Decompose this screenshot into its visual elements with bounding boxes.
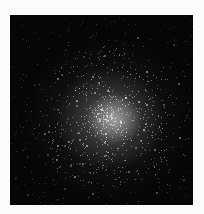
star [52,32,53,33]
star [87,109,88,110]
star [150,126,151,127]
star [96,65,97,66]
star [187,115,188,116]
star [89,116,90,117]
star [32,179,33,180]
star [27,194,29,196]
star [75,90,76,91]
star [97,101,98,102]
star [91,85,92,86]
star [49,125,50,126]
star [85,66,86,67]
star [81,130,82,131]
star [100,56,101,57]
star [27,157,28,158]
star [145,127,146,128]
star [13,34,14,35]
star [138,101,140,103]
star [152,114,153,115]
star [144,161,145,162]
star [164,150,165,151]
star [153,75,154,76]
star [146,172,147,173]
star [77,66,78,67]
star [16,151,17,152]
star [185,16,186,17]
star [152,97,153,98]
star [159,182,160,183]
star [103,126,104,127]
star [136,155,137,156]
star [141,31,142,32]
star [96,24,97,25]
star [106,139,107,140]
star [110,22,111,23]
star [103,64,104,65]
star [127,87,128,88]
star [103,110,104,111]
star [109,91,110,92]
star [84,116,85,117]
star [124,143,125,144]
star [158,138,159,139]
star [172,102,173,103]
star [104,55,106,57]
star [136,171,137,172]
star [192,26,193,27]
star [77,163,78,164]
star [154,149,156,151]
star [29,47,30,48]
star [96,33,97,34]
star [131,62,132,63]
star [133,103,134,104]
star [101,118,102,119]
star [112,137,113,138]
star [94,92,96,94]
star [61,133,62,134]
star [90,107,91,108]
star [89,58,90,59]
star [57,145,59,147]
star [185,60,186,61]
star [152,90,153,91]
star [99,94,100,95]
star [132,91,133,92]
star [74,177,75,178]
star [138,201,139,202]
star [97,113,99,115]
star [72,117,73,118]
star [71,159,72,160]
star [25,111,26,112]
star [80,180,81,181]
star [95,136,96,137]
star [69,155,70,156]
star [128,171,130,173]
star [24,184,25,185]
star [16,114,17,115]
star [173,44,175,46]
star [98,169,99,170]
star [176,45,177,46]
star [182,186,183,187]
star [86,73,87,74]
star [164,107,165,108]
star [139,112,140,113]
star [82,91,83,92]
star [172,198,173,199]
star [115,40,116,41]
star [61,129,62,130]
star [90,54,91,55]
star [91,182,92,183]
star [158,116,159,117]
star [111,113,112,114]
star [145,150,146,151]
star [87,155,88,156]
star [180,188,181,189]
star [138,173,139,174]
star [107,108,108,109]
star [146,104,148,106]
star [188,64,189,65]
star [39,133,40,134]
star [108,120,109,121]
star [161,161,162,162]
